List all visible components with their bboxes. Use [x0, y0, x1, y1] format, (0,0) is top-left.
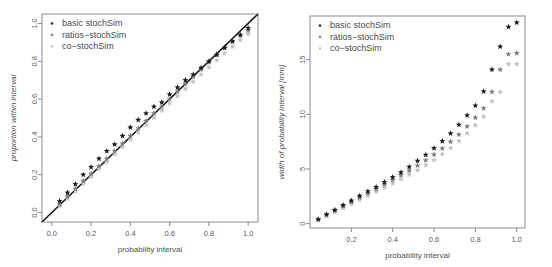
panel-proportion-within-interval: 0.00.20.40.60.81.00.00.20.40.60.81.0prob… [0, 0, 276, 267]
data-point-marker [489, 66, 495, 72]
legend-marker [50, 33, 54, 37]
data-point-marker [464, 123, 470, 129]
x-tick-label: 0.2 [86, 229, 96, 238]
figure-container: 0.00.20.40.60.81.00.00.20.40.60.81.0prob… [0, 0, 552, 267]
y-tick-label: 15 [298, 56, 307, 64]
data-point-marker [415, 167, 421, 173]
data-point-marker [96, 156, 102, 162]
legend-label: basic stochSim [330, 20, 391, 30]
y-tick-label: 0.6 [30, 94, 39, 104]
data-point-marker [481, 105, 487, 111]
x-tick-label: 0.8 [204, 229, 214, 238]
data-point-marker [112, 141, 118, 147]
data-point-marker [506, 24, 512, 30]
data-point-marker [489, 89, 495, 95]
data-point-marker [481, 113, 487, 119]
x-tick-label: 0.2 [346, 235, 356, 244]
x-tick-label: 0.6 [164, 229, 174, 238]
data-point-marker [514, 19, 520, 25]
data-point-marker [514, 61, 520, 67]
data-point-marker [472, 103, 478, 109]
data-point-marker [127, 124, 133, 130]
data-point-marker [497, 44, 503, 50]
data-point-marker [472, 115, 478, 121]
data-point-marker [198, 71, 204, 77]
data-point-marker [423, 162, 429, 168]
data-point-marker [431, 151, 437, 157]
data-point-marker [431, 145, 437, 151]
y-axis-title: width of probability interval [mm] [277, 64, 286, 179]
data-point-marker [448, 145, 454, 151]
y-tick-label: 0.4 [30, 132, 39, 142]
y-axis-title: proportion within interval [9, 74, 18, 162]
y-tick-label: 0.8 [30, 56, 39, 66]
data-point-marker [120, 133, 126, 139]
legend-marker [318, 35, 322, 39]
data-point-marker [431, 157, 437, 163]
data-point-marker [456, 122, 462, 128]
data-point-marker [206, 64, 212, 70]
data-point-marker [464, 130, 470, 136]
data-point-marker [489, 98, 495, 104]
scatter-plot-right: 0.20.40.60.81.0051015probability interva… [276, 0, 552, 267]
data-point-marker [135, 129, 141, 135]
data-point-marker [439, 151, 445, 157]
series-co-stochsim [315, 61, 519, 223]
x-tick-label: 1.0 [243, 229, 253, 238]
series-ratios-stochsim [315, 50, 519, 222]
data-point-marker [439, 138, 445, 144]
data-point-marker [88, 164, 94, 170]
data-point-marker [439, 145, 445, 151]
legend-marker [50, 44, 54, 48]
data-point-marker [222, 50, 228, 56]
data-point-marker [481, 88, 487, 94]
y-tick-label: 0 [298, 222, 307, 226]
data-point-marker [506, 51, 512, 57]
panel-width-of-probability-interval: 0.20.40.60.81.0051015probability interva… [276, 0, 552, 267]
data-point-marker [472, 122, 478, 128]
data-point-marker [230, 43, 236, 49]
series-co-stochsim [57, 31, 251, 209]
legend-marker [318, 46, 322, 50]
x-tick-label: 0.8 [470, 235, 480, 244]
legend-label: co−stochSim [330, 43, 382, 53]
y-tick-label: 5 [298, 167, 307, 171]
x-tick-label: 1.0 [512, 235, 522, 244]
scatter-plot-left: 0.00.20.40.60.81.00.00.20.40.60.81.0prob… [0, 0, 276, 267]
data-point-marker [456, 138, 462, 144]
legend-label: ratios−stochSim [62, 30, 126, 40]
data-point-marker [406, 172, 412, 178]
data-point-marker [497, 66, 503, 72]
data-point-marker [423, 152, 429, 158]
data-point-marker [506, 61, 512, 67]
legend-marker [318, 23, 322, 27]
data-point-marker [448, 139, 454, 145]
data-point-marker [127, 137, 133, 143]
y-tick-label: 0.2 [30, 170, 39, 180]
x-tick-label: 0.0 [47, 229, 57, 238]
x-tick-label: 0.6 [429, 235, 439, 244]
data-point-marker [497, 89, 503, 95]
x-tick-label: 0.4 [125, 229, 135, 238]
data-point-marker [514, 50, 520, 56]
x-axis-title: probability interval [385, 251, 450, 260]
y-tick-label: 10 [298, 110, 307, 118]
data-point-marker [80, 172, 86, 178]
data-point-marker [456, 131, 462, 137]
x-axis-title: probability interval [118, 245, 183, 254]
legend-marker [50, 21, 54, 25]
data-point-marker [214, 57, 220, 63]
data-point-marker [230, 38, 236, 44]
data-point-marker [423, 157, 429, 163]
y-tick-label: 1.0 [30, 18, 39, 28]
data-point-marker [135, 117, 141, 123]
data-point-marker [151, 104, 157, 110]
data-point-marker [448, 130, 454, 136]
y-tick-label: 0.0 [30, 207, 39, 217]
legend-label: ratios−stochSim [330, 32, 394, 42]
data-point-marker [143, 110, 149, 116]
data-point-marker [104, 148, 110, 154]
legend-label: co−stochSim [62, 41, 114, 51]
data-point-marker [398, 176, 404, 182]
data-point-marker [464, 112, 470, 118]
